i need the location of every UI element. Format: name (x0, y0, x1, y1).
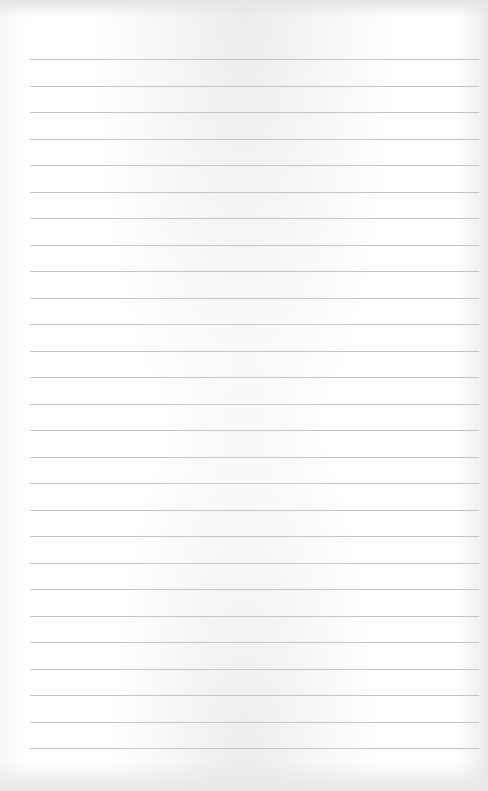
ruled-line (30, 218, 479, 219)
ruled-line (30, 616, 479, 617)
ruled-line (30, 86, 479, 87)
ruled-line (30, 271, 479, 272)
ruled-line (30, 112, 479, 113)
ruled-line (30, 139, 479, 140)
ruled-line (30, 589, 479, 590)
ruled-line (30, 457, 479, 458)
bottom-edge-shadow (0, 761, 488, 791)
ruled-line (30, 510, 479, 511)
ruled-line (30, 563, 479, 564)
ruled-line (30, 695, 479, 696)
ruled-line (30, 298, 479, 299)
ruled-line (30, 483, 479, 484)
ruled-line (30, 245, 479, 246)
ruled-line (30, 669, 479, 670)
ruled-line (30, 642, 479, 643)
ruled-line (30, 404, 479, 405)
ruled-line (30, 722, 479, 723)
ruled-line (30, 536, 479, 537)
ruled-line (30, 165, 479, 166)
ruled-line (30, 324, 479, 325)
ruled-line (30, 377, 479, 378)
ruled-line (30, 430, 479, 431)
ruled-line (30, 59, 479, 60)
ruled-line (30, 748, 479, 749)
lined-paper-sheet (0, 0, 488, 791)
ruled-line (30, 192, 479, 193)
top-edge-shadow (0, 0, 488, 18)
ruled-line (30, 351, 479, 352)
